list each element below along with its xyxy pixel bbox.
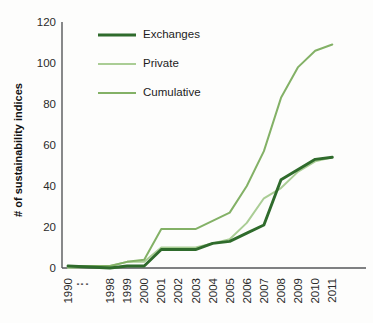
y-tick-label: 0: [50, 262, 56, 274]
chart-legend: ExchangesPrivateCumulative: [98, 28, 201, 98]
y-tick-label: 20: [43, 221, 56, 233]
y-tick-labels: 120100806040200: [37, 16, 62, 274]
x-tick-label: 2001: [155, 278, 167, 304]
x-tick-label: 2009: [292, 278, 304, 304]
legend-label-exchanges: Exchanges: [143, 28, 200, 40]
x-tick-label: 2002: [172, 278, 184, 304]
x-tick-label: 1998: [104, 278, 116, 304]
legend-label-private: Private: [143, 57, 179, 69]
y-axis-title: # of sustainability indices: [12, 83, 24, 217]
x-axis-break-symbol: ⋮: [76, 278, 88, 290]
legend-label-cumulative: Cumulative: [143, 86, 201, 98]
series-line-cumulative: [68, 45, 332, 266]
x-tick-label: 2008: [275, 278, 287, 304]
y-tick-label: 40: [43, 180, 56, 192]
x-tick-label: 2004: [207, 277, 219, 303]
x-tick-label: 2003: [190, 278, 202, 304]
x-tick-label: 2010: [309, 278, 321, 304]
x-tick-label: 2005: [224, 278, 236, 304]
x-tick-labels: 1990199819992000200120022003200420052006…: [62, 277, 338, 303]
y-tick-label: 120: [37, 16, 56, 28]
x-tick-label: 1990: [62, 278, 74, 304]
x-tick-label: 1999: [121, 278, 133, 304]
x-tick-label: 2007: [258, 278, 270, 304]
x-tick-label: 2000: [138, 278, 150, 304]
y-tick-label: 100: [37, 57, 56, 69]
sustainability-indices-line-chart: # of sustainability indices 120100806040…: [0, 0, 373, 323]
chart-canvas: # of sustainability indices 120100806040…: [0, 0, 373, 323]
y-tick-label: 80: [43, 98, 56, 110]
x-tick-label: 2011: [326, 278, 338, 303]
x-tick-label: 2006: [241, 278, 253, 304]
series-line-exchanges: [68, 157, 332, 268]
y-tick-label: 60: [43, 139, 56, 151]
series-lines: [68, 45, 332, 268]
